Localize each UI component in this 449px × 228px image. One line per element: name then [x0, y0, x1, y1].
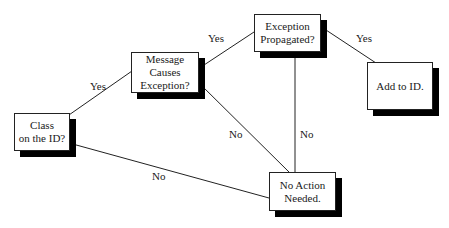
node-label-line: on the ID? [19, 132, 65, 145]
node-label-line: Add to ID. [376, 80, 423, 93]
edge-message-to-noaction [199, 83, 290, 173]
node-label-line: Exception? [140, 79, 189, 92]
decision-box: Class on the ID? [14, 113, 70, 151]
node-label-line: Needed. [280, 192, 326, 205]
edge-label-yes: Yes [356, 32, 372, 44]
action-box: No Action Needed. [269, 172, 336, 211]
decision-box: Exception Propagated? [254, 14, 321, 52]
decision-box: Message Causes Exception? [131, 52, 199, 93]
edge-label-no: No [152, 170, 165, 182]
edge-label-yes: Yes [208, 32, 224, 44]
node-label-line: No Action [280, 179, 326, 192]
node-label-line: Class [19, 119, 65, 132]
edge-label-no: No [300, 128, 313, 140]
action-box: Add to ID. [367, 62, 433, 110]
node-label-line: Message [140, 53, 189, 66]
node-label-line: Exception [260, 20, 314, 33]
edge-label-no: No [229, 128, 242, 140]
edge-label-yes: Yes [90, 80, 106, 92]
node-label-line: Propagated? [260, 33, 314, 46]
node-label-line: Causes [140, 66, 189, 79]
edge-class-to-noaction [69, 143, 269, 198]
